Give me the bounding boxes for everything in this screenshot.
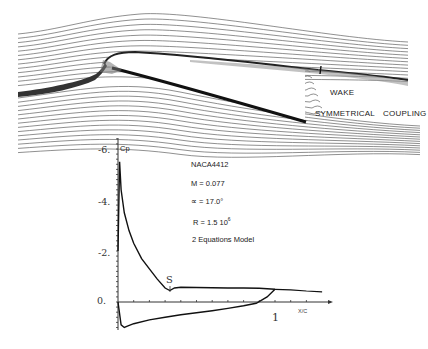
reynolds-base: R = 1.5 10 — [193, 218, 228, 227]
wake-marker — [320, 66, 321, 74]
separation-label: S — [166, 274, 173, 285]
turbulence-model: 2 Equations Model — [192, 235, 254, 244]
reynolds-number: R = 1.5 106 — [193, 216, 231, 227]
y-axis-label: Cp — [120, 144, 130, 153]
y-tick-0: 0. — [97, 295, 106, 306]
y-tick-neg2: -2. — [98, 247, 110, 258]
y-tick-neg6: -6. — [98, 144, 110, 155]
angle-of-attack: ∝ = 17.0° — [191, 197, 223, 206]
wake-label: WAKE — [330, 88, 354, 97]
figure-canvas — [0, 0, 428, 349]
lower-surface-curve — [118, 289, 275, 327]
x-axis-label: X/C — [298, 308, 307, 314]
mach-number: M = 0.077 — [191, 179, 225, 188]
y-tick-neg4: -4. — [98, 196, 110, 207]
symmetrical-coupling-label: SYMMETRICAL COUPLING — [315, 109, 427, 118]
x-tick-1: 1 — [272, 311, 279, 324]
reynolds-exponent: 6 — [228, 216, 231, 222]
airfoil-name: NACA4412 — [191, 160, 229, 169]
x-axis-arrow — [328, 300, 333, 304]
wake-curve — [275, 289, 322, 292]
